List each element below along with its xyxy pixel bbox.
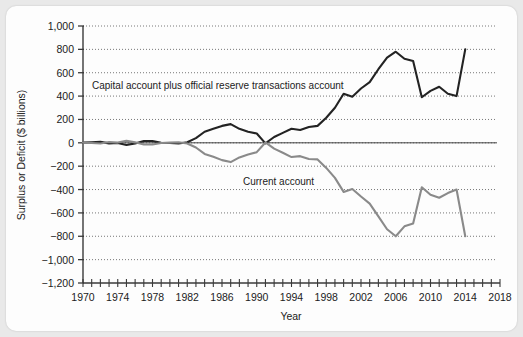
y-axis-tick-label: 0 [68, 137, 74, 149]
y-axis-tick-label: −600 [50, 207, 74, 219]
line-chart: 1,0008006004002000−200−400−600−800−1,000… [0, 0, 523, 337]
x-axis-tick-labels-group: 1970197419781982198619901994199820022006… [71, 291, 512, 303]
x-axis-tick-label: 1986 [210, 291, 234, 303]
x-axis-tick-label: 1970 [71, 291, 95, 303]
x-axis-tick-label: 2014 [454, 291, 478, 303]
y-axis-tick-label: 600 [56, 67, 74, 79]
y-axis-tick-label: 400 [56, 90, 74, 102]
y-axis-tick-label: −1,000 [42, 254, 75, 266]
x-axis-tick-label: 1994 [280, 291, 304, 303]
x-axis-tick-label: 1978 [141, 291, 165, 303]
series-line-capital-account [83, 49, 465, 145]
x-axis-tick-label: 1974 [106, 291, 130, 303]
y-axis-title: Surplus or Deficit ($ billions) [15, 90, 27, 221]
chart-container: 1,0008006004002000−200−400−600−800−1,000… [0, 0, 523, 337]
x-axis-tick-label: 1982 [176, 291, 200, 303]
y-axis-tick-labels-group: 1,0008006004002000−200−400−600−800−1,000… [42, 20, 75, 289]
x-axis-tick-label: 1998 [315, 291, 339, 303]
y-axis-tick-label: 200 [56, 113, 74, 125]
y-axis-tick-label: −400 [50, 184, 74, 196]
x-axis-tick-label: 1990 [245, 291, 269, 303]
capital-account-annotation: Capital account plus official reserve tr… [92, 80, 344, 91]
x-axis-tick-label: 2010 [419, 291, 443, 303]
y-axis-tick-label: −800 [50, 230, 74, 242]
series-line-current-account [83, 141, 465, 237]
y-axis-tick-label: 1,000 [48, 20, 74, 32]
y-axis-tick-label: −200 [50, 160, 74, 172]
x-axis-tick-label: 2006 [384, 291, 408, 303]
x-axis-tick-label: 2002 [349, 291, 373, 303]
x-axis-tick-label: 2018 [488, 291, 512, 303]
y-axis-tick-label: 800 [56, 43, 74, 55]
x-axis-title: Year [280, 310, 302, 322]
y-axis-tick-label: −1,200 [42, 277, 75, 289]
current-account-annotation: Current account [243, 176, 314, 187]
